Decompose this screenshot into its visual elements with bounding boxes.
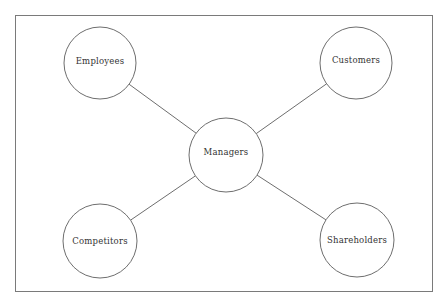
node-label-managers: Managers	[204, 147, 249, 157]
node-label-customers: Customers	[332, 55, 380, 65]
edge-managers-employees	[129, 84, 196, 133]
node-label-competitors: Competitors	[72, 236, 127, 246]
edge-managers-customers	[256, 84, 326, 134]
node-label-shareholders: Shareholders	[327, 235, 387, 245]
edge-managers-shareholders	[257, 175, 326, 220]
edge-managers-competitors	[131, 176, 196, 220]
node-label-employees: Employees	[76, 56, 125, 66]
